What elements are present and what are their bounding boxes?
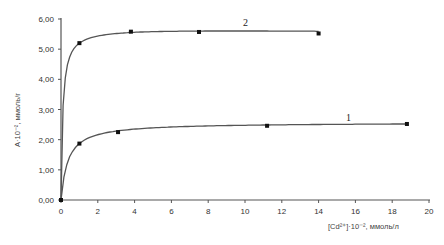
curve-2 [61,31,319,200]
data-point [129,30,133,34]
data-point [77,41,81,45]
y-tick-label: 3,00 [38,106,54,115]
x-tick-label: 6 [169,207,174,216]
data-point [317,31,321,35]
y-tick-label: 6,00 [38,15,54,24]
x-axis-ticks: 02468101214161820 [59,200,434,216]
curve-1 [61,124,407,200]
x-tick-label: 18 [388,207,397,216]
x-tick-label: 0 [59,207,64,216]
data-point [77,142,81,146]
y-tick-label: 1,00 [38,166,54,175]
data-point [405,122,409,126]
x-tick-label: 2 [96,207,101,216]
curve-label-2: 2 [243,17,248,28]
y-tick-label: 5,00 [38,45,54,54]
x-tick-label: 10 [241,207,250,216]
x-tick-label: 12 [277,207,286,216]
curves [59,30,409,202]
y-tick-label: 2,00 [38,136,54,145]
data-point [197,30,201,34]
x-tick-label: 16 [351,207,360,216]
y-tick-label: 0,00 [38,196,54,205]
x-tick-label: 8 [206,207,211,216]
chart: 0,001,002,003,004,005,006,00 02468101214… [0,0,444,245]
x-tick-label: 20 [425,207,434,216]
data-point [116,130,120,134]
x-axis-label: [Cd²⁺]·10⁻², ммоль/л [328,222,399,231]
data-point [265,124,269,128]
x-tick-label: 4 [132,207,137,216]
data-point [59,198,63,202]
y-axis-label: A·10⁻², ммоль/г [13,93,22,147]
y-tick-label: 4,00 [38,75,54,84]
x-tick-label: 14 [314,207,323,216]
curve-label-1: 1 [346,112,351,123]
y-axis-ticks: 0,001,002,003,004,005,006,00 [38,15,61,205]
